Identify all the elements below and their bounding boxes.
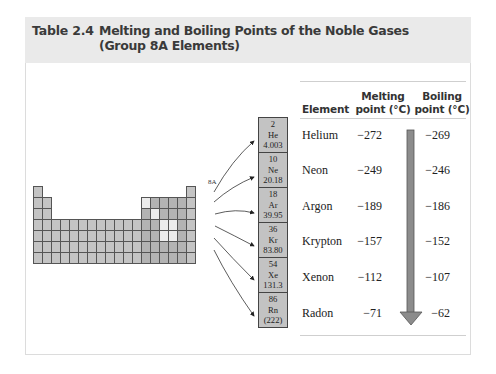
atomic-mass: 4.003	[259, 140, 287, 151]
atomic-mass: 83.80	[259, 245, 287, 256]
periodic-table-cell	[186, 252, 196, 264]
cell-element: Radon	[302, 306, 333, 321]
header-element: Element	[302, 103, 349, 116]
element-box-xe: 54 Xe 131.3	[258, 257, 288, 293]
cell-melting: −112	[342, 270, 382, 285]
element-box-ar: 18 Ar 39.95	[258, 187, 288, 223]
atomic-number: 18	[259, 189, 287, 200]
element-symbol: Rn	[259, 305, 287, 316]
header-melting-line1: Melting	[351, 90, 415, 103]
element-symbol: Xe	[259, 270, 287, 281]
cell-element: Helium	[302, 128, 338, 143]
element-symbol: Ar	[259, 200, 287, 211]
atomic-number: 54	[259, 259, 287, 270]
atomic-number: 36	[259, 224, 287, 235]
element-box-he: 2 He 4.003	[258, 117, 288, 153]
atomic-number: 2	[259, 119, 287, 130]
cell-melting: −272	[342, 128, 382, 143]
header-boiling: Boiling point (°C)	[410, 90, 474, 116]
element-symbol: He	[259, 130, 287, 141]
element-box-ne: 10 Ne 20.18	[258, 152, 288, 188]
element-box-kr: 36 Kr 83.80	[258, 222, 288, 258]
down-arrow-icon	[398, 128, 424, 328]
cell-melting: −157	[342, 234, 382, 249]
atomic-mass: 39.95	[259, 210, 287, 221]
cell-element: Neon	[302, 163, 328, 178]
element-box-rn: 86 Rn (222)	[258, 292, 288, 328]
element-symbol: Kr	[259, 235, 287, 246]
header-underline	[300, 118, 466, 119]
atomic-number: 10	[259, 154, 287, 165]
header-melting-line2: point (°C)	[351, 103, 415, 116]
header-boiling-line1: Boiling	[410, 90, 474, 103]
atomic-mass: 131.3	[259, 280, 287, 291]
table-bottom-rule	[300, 335, 466, 336]
header-boiling-line2: point (°C)	[410, 103, 474, 116]
cell-melting: −249	[342, 163, 382, 178]
table-top-rule	[300, 81, 466, 82]
cell-melting: −71	[342, 306, 382, 321]
cell-element: Krypton	[302, 234, 342, 249]
atomic-mass: 20.18	[259, 175, 287, 186]
atomic-number: 86	[259, 294, 287, 305]
noble-gas-column: 2 He 4.003 10 Ne 20.18 18 Ar 39.95 36 Kr…	[258, 118, 288, 328]
header-melting: Melting point (°C)	[351, 90, 415, 116]
cell-element: Xenon	[302, 270, 334, 285]
atomic-mass: (222)	[259, 315, 287, 326]
cell-element: Argon	[302, 199, 332, 214]
cell-melting: −189	[342, 199, 382, 214]
element-symbol: Ne	[259, 165, 287, 176]
